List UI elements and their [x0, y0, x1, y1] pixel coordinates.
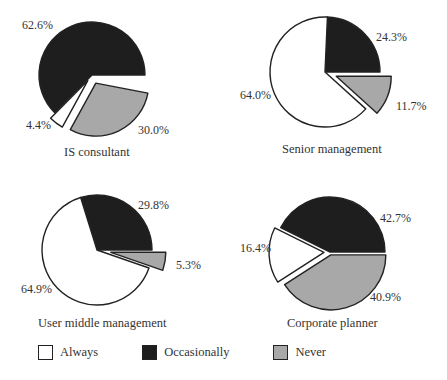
- occasionally-swatch-icon: [142, 345, 157, 360]
- legend: Always Occasionally Never: [38, 345, 356, 360]
- chart-1-occasionally-label: 62.6%: [22, 18, 53, 33]
- chart-3-never-label: 5.3%: [176, 258, 201, 273]
- chart-3-title: User middle management: [38, 316, 166, 331]
- legend-label-occasionally: Occasionally: [164, 345, 229, 360]
- chart-2-occasionally-label: 24.3%: [376, 30, 407, 45]
- chart-3-occasionally-label: 29.8%: [138, 198, 169, 213]
- legend-item-always: Always: [38, 345, 98, 360]
- chart-2-title: Senior management: [282, 142, 382, 157]
- chart-3-always-label: 64.9%: [21, 282, 52, 297]
- legend-item-never: Never: [273, 345, 326, 360]
- chart-4-always-label: 16.4%: [240, 241, 271, 256]
- chart-1-always-label: 4.4%: [26, 118, 51, 133]
- chart-2-never-label: 11.7%: [396, 99, 427, 114]
- chart-4-occasionally-label: 42.7%: [380, 211, 411, 226]
- legend-item-occasionally: Occasionally: [142, 345, 229, 360]
- legend-label-never: Never: [295, 345, 326, 360]
- chart-2-always-label: 64.0%: [240, 88, 271, 103]
- never-swatch-icon: [273, 345, 288, 360]
- chart-1-title: IS consultant: [64, 145, 130, 160]
- always-swatch-icon: [38, 345, 53, 360]
- legend-label-always: Always: [60, 345, 98, 360]
- chart-2-occasionally-slice: [325, 17, 380, 72]
- chart-4-never-label: 40.9%: [370, 290, 401, 305]
- chart-1-never-label: 30.0%: [138, 123, 169, 138]
- chart-4-title: Corporate planner: [287, 316, 378, 331]
